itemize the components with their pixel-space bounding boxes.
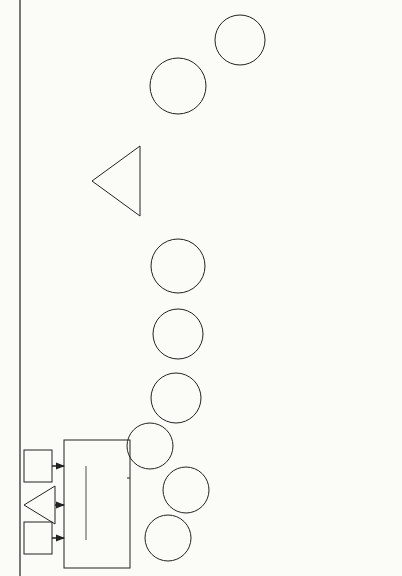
diagram-lines [0, 0, 402, 576]
diagram-canvas [0, 0, 402, 576]
